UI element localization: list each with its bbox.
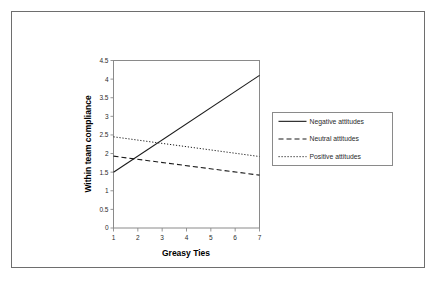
figure-frame <box>11 11 425 268</box>
chart-figure: 00.511.522.533.544.5 1234567 Within team… <box>0 0 441 282</box>
